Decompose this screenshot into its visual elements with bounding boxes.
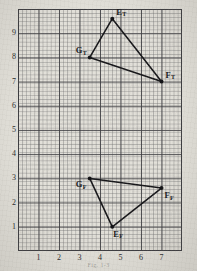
figure-caption: Fig. 1-3	[0, 262, 197, 268]
vertex-label: FT	[166, 71, 175, 80]
vertex-label-subscript: F	[170, 195, 174, 201]
x-tick-label: 4	[93, 254, 107, 262]
vertex-point	[160, 80, 164, 84]
vertex-point	[110, 17, 114, 21]
x-tick-label: 1	[32, 254, 46, 262]
vertex-label: GF	[76, 180, 86, 189]
vertex-label-subscript: T	[171, 74, 175, 80]
triangle-outline	[90, 19, 162, 82]
vertex-point	[160, 186, 164, 190]
x-tick-label: 5	[114, 254, 128, 262]
vertex-label-letter: F	[166, 70, 171, 80]
y-tick-label: 9	[2, 29, 16, 37]
y-tick-label: 7	[2, 78, 16, 86]
vertex-label-subscript: F	[119, 233, 123, 239]
graph-figure-page: 9876543211234567 ETFTGTGFFFEF Fig. 1-3	[0, 0, 197, 271]
vertex-label-letter: G	[76, 179, 83, 189]
x-tick-label: 6	[134, 254, 148, 262]
vertex-point	[88, 55, 92, 59]
vertex-label-subscript: T	[122, 11, 126, 17]
y-tick-label: 2	[2, 199, 16, 207]
x-tick-label: 3	[73, 254, 87, 262]
y-tick-label: 6	[2, 102, 16, 110]
y-tick-label: 5	[2, 126, 16, 134]
triangles-layer	[18, 9, 182, 251]
y-tick-label: 3	[2, 174, 16, 182]
triangle-outline	[90, 178, 162, 226]
vertex-label-subscript: F	[83, 184, 87, 190]
y-tick-label: 1	[2, 223, 16, 231]
vertex-label: FF	[165, 191, 174, 200]
x-tick-label: 7	[155, 254, 169, 262]
vertex-label: ET	[116, 8, 126, 17]
vertex-label: EF	[113, 230, 122, 239]
vertex-label: GT	[76, 46, 87, 55]
y-tick-label: 8	[2, 53, 16, 61]
vertex-label-letter: G	[76, 45, 83, 55]
y-tick-label: 4	[2, 150, 16, 158]
vertex-label-subscript: T	[83, 50, 87, 56]
vertex-point	[88, 176, 92, 180]
vertex-label-letter: F	[165, 190, 170, 200]
x-tick-label: 2	[52, 254, 66, 262]
